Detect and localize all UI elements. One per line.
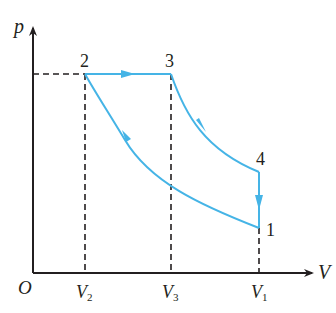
point-3-label: 3 [165,52,174,70]
arrow-4-1-icon [255,195,263,210]
process-3-4 [171,74,259,172]
origin-label: O [18,278,32,297]
y-axis-label: p [14,16,24,36]
arrow-2-3-icon [121,70,135,78]
point-1-label: 1 [266,221,275,239]
process-1-2 [85,74,259,228]
x-axis-label: V [318,262,330,282]
pv-diagram: p V O V2 V3 V1 2 3 4 1 [0,0,336,313]
tick-v2: V2 [76,283,93,303]
dashed-guides [33,74,259,273]
direction-arrows [121,70,263,210]
tick-v1: V1 [251,283,268,303]
diagram-canvas [0,0,336,313]
tick-v3: V3 [162,283,179,303]
point-2-label: 2 [80,52,89,70]
point-4-label: 4 [256,150,265,168]
cycle-path [85,74,259,228]
